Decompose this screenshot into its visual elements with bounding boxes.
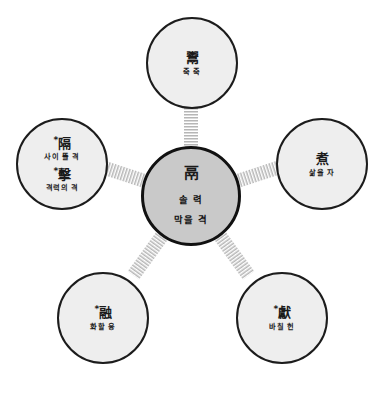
node-left-gloss-2: 격력의 격 bbox=[46, 184, 79, 191]
node-left-entry-1: *隔 사이 뜰 격 bbox=[44, 137, 79, 161]
center-node-gloss-2: 막을 격 bbox=[174, 212, 209, 226]
node-bottom-right[interactable]: *獻 바칠 헌 bbox=[236, 272, 328, 364]
node-top-gloss: 죽 죽 bbox=[183, 68, 201, 75]
node-left[interactable]: *隔 사이 뜰 격 *擊 격력의 격 bbox=[16, 118, 108, 210]
node-top-character: 鬻 bbox=[186, 51, 199, 65]
connector-center-bottom-right bbox=[215, 232, 255, 279]
node-bottom-left-entry: *融 화할 융 bbox=[90, 306, 115, 330]
center-node-character: 鬲 bbox=[184, 166, 199, 182]
node-right-han: 煮 bbox=[316, 151, 329, 166]
node-left-han-2: 擊 bbox=[58, 167, 71, 182]
node-bottom-left-character: *融 bbox=[94, 306, 111, 320]
node-bottom-right-han: 獻 bbox=[278, 305, 291, 320]
center-node-gloss-1: 솔 력 bbox=[179, 192, 204, 206]
node-top[interactable]: 鬻 죽 죽 bbox=[146, 17, 238, 109]
node-bottom-left[interactable]: *融 화할 융 bbox=[57, 272, 149, 364]
center-node-glosses: 솔 력 막을 격 bbox=[174, 190, 209, 226]
node-right-character: 煮 bbox=[316, 152, 329, 166]
node-bottom-left-han: 融 bbox=[99, 305, 112, 320]
node-bottom-right-character: *獻 bbox=[273, 306, 290, 320]
node-left-marker-1: * bbox=[53, 135, 57, 145]
node-left-character-1: *隔 bbox=[53, 137, 70, 151]
node-left-han-1: 隔 bbox=[58, 136, 71, 151]
node-bottom-right-gloss: 바칠 헌 bbox=[269, 323, 294, 330]
node-left-marker-2: * bbox=[53, 166, 57, 176]
diagram-canvas: 鬲 솔 력 막을 격 鬻 죽 죽 煮 삶을 자 *獻 바칠 헌 *融 화할 융 bbox=[0, 0, 383, 393]
node-top-entry: 鬻 죽 죽 bbox=[183, 51, 201, 75]
node-top-han: 鬻 bbox=[186, 50, 199, 65]
center-node[interactable]: 鬲 솔 력 막을 격 bbox=[141, 146, 241, 246]
node-right[interactable]: 煮 삶을 자 bbox=[276, 118, 368, 210]
node-bottom-left-marker: * bbox=[94, 304, 98, 314]
connector-center-bottom-left bbox=[128, 232, 168, 279]
node-right-entry: 煮 삶을 자 bbox=[309, 152, 334, 176]
node-bottom-left-gloss: 화할 융 bbox=[90, 323, 115, 330]
node-bottom-right-marker: * bbox=[273, 304, 277, 314]
node-left-character-2: *擊 bbox=[53, 168, 70, 182]
node-bottom-right-entry: *獻 바칠 헌 bbox=[269, 306, 294, 330]
node-right-gloss: 삶을 자 bbox=[309, 169, 334, 176]
node-left-entry-2: *擊 격력의 격 bbox=[46, 168, 79, 192]
node-left-gloss-1: 사이 뜰 격 bbox=[44, 153, 79, 160]
